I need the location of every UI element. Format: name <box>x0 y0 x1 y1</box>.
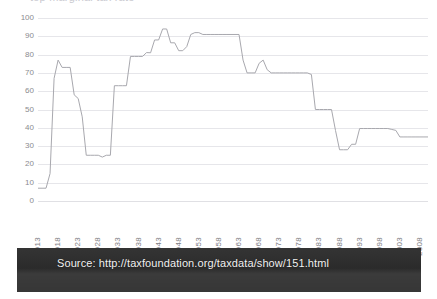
series-line <box>38 18 428 201</box>
chart-screenshot: top marginal tax rate 010203040506070809… <box>0 0 437 299</box>
y-tick-50: 50 <box>25 106 34 114</box>
y-tick-0: 0 <box>30 197 34 205</box>
source-banner: Source: http://taxfoundation.org/taxdata… <box>17 248 421 292</box>
banner-strip <box>17 274 421 292</box>
y-tick-80: 80 <box>25 51 34 59</box>
y-tick-10: 10 <box>25 179 34 187</box>
gridline-0 <box>38 201 428 202</box>
cropped-title: top marginal tax rate <box>0 0 437 8</box>
y-tick-30: 30 <box>25 142 34 150</box>
y-axis-labels: 0102030405060708090100 <box>0 18 34 201</box>
source-text: Source: http://taxfoundation.org/taxdata… <box>57 257 329 269</box>
line-chart: 0102030405060708090100 19131918192319281… <box>0 10 437 212</box>
y-tick-70: 70 <box>25 69 34 77</box>
y-tick-40: 40 <box>25 124 34 132</box>
y-tick-90: 90 <box>25 32 34 40</box>
y-tick-60: 60 <box>25 87 34 95</box>
cropped-title-text: top marginal tax rate <box>30 0 134 3</box>
y-tick-20: 20 <box>25 160 34 168</box>
y-tick-100: 100 <box>21 14 34 22</box>
plot-area <box>38 18 428 201</box>
